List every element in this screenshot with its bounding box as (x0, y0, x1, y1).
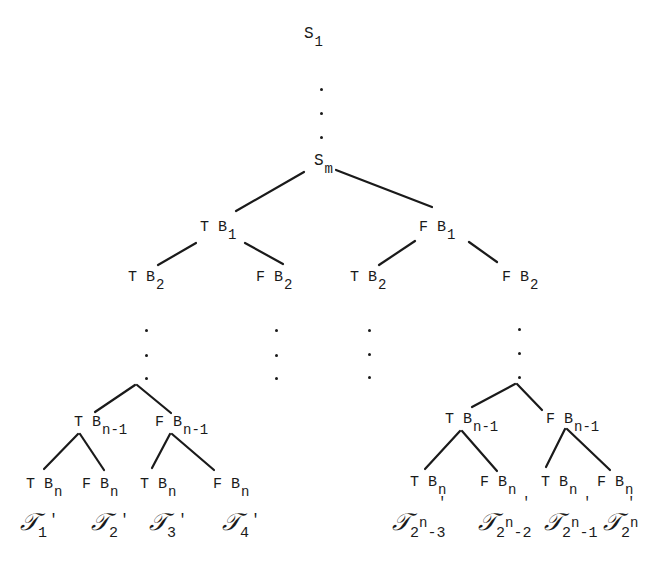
ellipsis-dot (320, 112, 323, 115)
leaf-subscript: 1 (38, 525, 47, 542)
node-label: B (615, 474, 624, 491)
edge-sm-tb1 (236, 172, 304, 211)
edge-tb1-fb2 (245, 243, 283, 264)
node-label: B (463, 411, 472, 428)
ellipsis-dot (145, 377, 148, 380)
node-t-bn1-right: TBn-1 (445, 412, 498, 427)
edge-l-tbn1-fbn (80, 434, 104, 470)
node-label: B (520, 269, 529, 286)
edge-right-split-f (517, 384, 542, 410)
ellipsis-dot (145, 354, 148, 357)
node-subscript: m (325, 161, 333, 177)
node-label: B (498, 474, 507, 491)
edge-left-split-f (137, 385, 171, 413)
node-prefix: F (480, 474, 489, 491)
node-label: B (437, 219, 446, 236)
node-subscript: n (110, 484, 118, 500)
leaf-subscript: 2 (621, 525, 630, 542)
ellipsis-dot (368, 353, 371, 356)
node-prefix: T (74, 414, 83, 431)
node-t-bn-5: TBn (410, 475, 446, 490)
leaf-prime: ' (583, 496, 591, 510)
node-prefix: T (200, 219, 209, 236)
decision-tree-diagram: S1 Sm TB1 FB1 TB2 FB2 TB2 FB2 TBn-1 FB (0, 0, 672, 575)
node-prefix: F (213, 476, 222, 493)
edge-fb1-tb2 (379, 241, 415, 265)
node-t-b2-left: TB2 (128, 270, 164, 285)
node-f-bn-6: FBn (480, 475, 516, 490)
ellipsis-dot (275, 329, 278, 332)
leaf-prime: ' (522, 496, 530, 510)
tau-symbol: 𝒯 (149, 508, 167, 536)
leaf-subscript: 2 (109, 525, 118, 542)
edge-r-tbn1-fbn (462, 431, 497, 471)
edge-fb1-fb2 (469, 242, 497, 262)
node-label: B (158, 476, 167, 493)
node-subscript: n-1 (473, 419, 498, 435)
node-t-b1: TB1 (200, 220, 236, 235)
ellipsis-dot (275, 354, 278, 357)
tau-symbol: 𝒯 (20, 508, 38, 536)
node-subscript: n-1 (183, 422, 208, 438)
tau-symbol: 𝒯 (603, 508, 621, 536)
node-f-bn-4: FBn (213, 477, 249, 492)
node-label: B (274, 269, 283, 286)
leaf-tau-4: 𝒯4' (222, 510, 260, 534)
node-subscript: n (168, 484, 176, 500)
leaf-superscript: n (630, 515, 638, 531)
node-subscript: 2 (284, 277, 292, 293)
node-t-bn-1: TBn (26, 477, 62, 492)
node-f-bn1-left: FBn-1 (155, 415, 208, 430)
leaf-subscript: 3 (167, 525, 176, 542)
node-label: B (428, 474, 437, 491)
node-subscript: 2 (530, 277, 538, 293)
leaf-prime: ' (251, 512, 260, 529)
ellipsis-dot (518, 376, 521, 379)
node-label: B (100, 476, 109, 493)
ellipsis-dot (518, 352, 521, 355)
node-t-bn1-left: TBn-1 (74, 415, 127, 430)
leaf-tail: -2 (513, 525, 531, 542)
node-prefix: F (546, 411, 555, 428)
node-prefix: F (502, 269, 511, 286)
node-label: B (44, 476, 53, 493)
node-prefix: F (155, 414, 164, 431)
edge-r-fbn1-fbn (567, 429, 610, 470)
node-prefix: F (419, 219, 428, 236)
node-t-bn-3: TBn (140, 477, 176, 492)
tau-symbol: 𝒯 (544, 508, 562, 536)
leaf-prime: ' (438, 496, 446, 510)
node-label: B (92, 414, 101, 431)
node-subscript: n (508, 482, 516, 498)
edge-sm-fb1 (336, 170, 432, 207)
leaf-prime: ' (627, 496, 635, 510)
node-label: B (218, 219, 227, 236)
node-t-b2-right: TB2 (350, 270, 386, 285)
node-label: B (559, 474, 568, 491)
node-subscript: 2 (378, 277, 386, 293)
node-prefix: T (128, 269, 137, 286)
node-label: B (173, 414, 182, 431)
leaf-tail: -3 (427, 525, 445, 542)
leaf-subscript: 4 (240, 525, 249, 542)
ellipsis-dot (320, 136, 323, 139)
node-label: B (146, 269, 155, 286)
node-label: B (368, 269, 377, 286)
leaf-tau-2n: ' 𝒯2n (603, 510, 638, 534)
leaf-tau-2n-3: ' 𝒯2n-3 (392, 510, 445, 534)
edge-l-fbn1-tbn (152, 434, 170, 468)
node-f-b1: FB1 (419, 220, 455, 235)
leaf-subscript: 2 (562, 525, 571, 542)
ellipsis-dot (275, 377, 278, 380)
leaf-tau-2: 𝒯2' (91, 510, 129, 534)
node-prefix: F (82, 476, 91, 493)
node-subscript: 1 (447, 227, 455, 243)
edge-left-split-t (95, 385, 135, 412)
leaf-subscript: 2 (410, 525, 419, 542)
node-label: S (304, 25, 314, 43)
node-label: B (564, 411, 573, 428)
node-sm: Sm (314, 153, 333, 169)
edge-right-split-t (472, 384, 515, 407)
edge-l-fbn1-fbn (172, 434, 214, 470)
node-prefix: T (350, 269, 359, 286)
